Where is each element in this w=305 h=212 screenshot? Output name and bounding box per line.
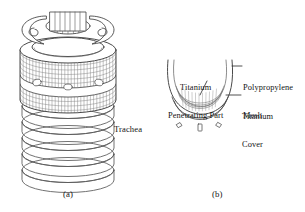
caption-panel-a: (a): [63, 190, 73, 200]
caption-panel-b: (b): [212, 190, 223, 200]
label-titanium-cover: Titanium Cover: [242, 93, 273, 168]
label-titanium-penetrating-part: Titanium Penetrating Part: [168, 64, 223, 139]
label-titanium-penetrating-line1: Titanium: [168, 83, 223, 92]
stent-center-fins: [50, 12, 86, 31]
panel-a-drawing: [20, 10, 116, 193]
label-polypropylene-line1: Polypropylene: [243, 83, 293, 92]
label-titanium-cover-line1: Titanium: [242, 112, 273, 121]
label-trachea: Trachea: [114, 125, 142, 135]
label-titanium-penetrating-line2: Penetrating Part: [168, 111, 223, 120]
label-titanium-cover-line2: Cover: [242, 140, 273, 149]
figure-root: Trachea Titanium Penetrating Part Polypr…: [0, 0, 305, 212]
